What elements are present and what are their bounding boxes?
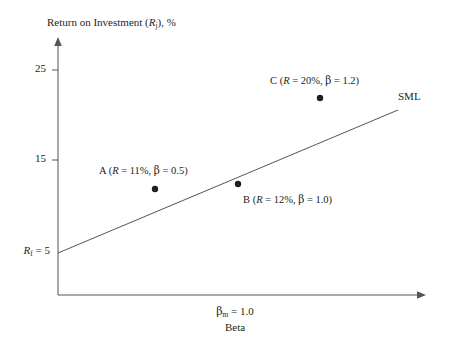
risk-free-value: = 5: [33, 244, 50, 256]
x-axis-title: Beta: [170, 321, 300, 334]
y-axis-title-suffix: ), %: [158, 16, 176, 28]
point-a-beta-value: = 0.5): [160, 165, 188, 176]
x-axis-market-beta-label: βm = 1.0: [170, 305, 300, 318]
point-c-name: C: [270, 75, 277, 86]
data-point-label-b: B (R = 12%, β = 1.0): [243, 193, 332, 206]
y-tick-label-risk-free: Rf = 5: [8, 244, 50, 257]
data-point-c: [317, 95, 323, 101]
point-a-return-value: = 11%,: [119, 165, 154, 176]
point-b-name: B: [243, 194, 250, 205]
point-c-beta-value: = 1.2): [331, 75, 359, 86]
market-beta-value: = 1.0: [228, 305, 253, 317]
point-a-name: A: [99, 165, 106, 176]
market-beta-subscript: m: [223, 310, 229, 319]
y-axis-arrow-icon: [54, 37, 62, 46]
security-market-line-chart: Return on Investment (Rj), % 25 15 Rf = …: [0, 0, 451, 352]
data-point-b: [235, 181, 241, 187]
sml-line-label: SML: [398, 90, 421, 103]
risk-free-subscript: f: [30, 249, 33, 258]
sml-line: [58, 110, 398, 253]
point-b-beta-value: = 1.0): [304, 194, 332, 205]
point-c-return-value: = 20%,: [290, 75, 326, 86]
y-tick-label-15: 15: [16, 152, 46, 165]
y-axis-title-subscript: j: [155, 21, 157, 30]
market-beta-symbol: β: [216, 305, 222, 318]
y-axis-title: Return on Investment (Rj), %: [47, 16, 176, 29]
chart-canvas: [0, 0, 451, 352]
x-axis-arrow-icon: [417, 291, 426, 299]
data-point-label-a: A (R = 11%, β = 0.5): [99, 164, 188, 177]
point-b-return-value: = 12%,: [263, 194, 299, 205]
data-point-a: [152, 186, 158, 192]
y-tick-label-25: 25: [16, 62, 46, 75]
y-axis-title-prefix: Return on Investment (: [47, 16, 149, 28]
data-point-label-c: C (R = 20%, β = 1.2): [270, 74, 359, 87]
